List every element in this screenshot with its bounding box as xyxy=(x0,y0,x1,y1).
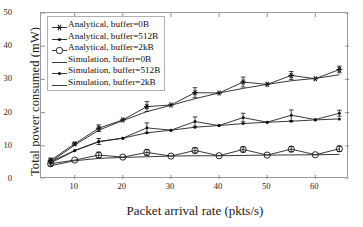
open-circle-marker-icon xyxy=(51,42,68,53)
y-tick-label: 30 xyxy=(0,73,12,83)
dot-marker-icon xyxy=(51,31,68,42)
legend-item: Analytical, buffer=2kB xyxy=(51,42,160,54)
legend-item: Simulation, buffer=2kB xyxy=(51,77,160,89)
legend-label: Analytical, buffer=2kB xyxy=(68,42,154,53)
legend-label: Analytical, buffer=0B xyxy=(68,19,149,30)
y-tick-label: 40 xyxy=(0,40,12,50)
dot-marker-icon xyxy=(51,65,68,76)
legend-item: Analytical, buffer=0B xyxy=(51,19,160,31)
x-tick-label: 20 xyxy=(107,181,137,191)
figure: Total power consumed (mW) 50403020100 10… xyxy=(0,0,363,227)
y-tick-label: 20 xyxy=(0,107,12,117)
x-tick-label: 60 xyxy=(299,181,329,191)
legend-label: Analytical, buffer=512B xyxy=(68,31,158,42)
x-tick-label: 30 xyxy=(155,181,185,191)
legend-item: Analytical, buffer=512B xyxy=(51,31,160,43)
line-marker-icon xyxy=(51,77,68,88)
x-tick-label: 40 xyxy=(203,181,233,191)
line-marker-icon xyxy=(51,54,68,65)
legend-label: Simulation, buffer=0B xyxy=(68,54,151,65)
legend-item: Simulation, buffer=0B xyxy=(51,54,160,66)
x-axis-title: Packet arrival rate (pkts/s) xyxy=(40,203,350,219)
y-tick-label: 50 xyxy=(0,7,12,17)
x-tick-label: 10 xyxy=(59,181,89,191)
x-tick-label: 50 xyxy=(251,181,281,191)
legend-item: Simulation, buffer=512B xyxy=(51,65,160,77)
legend-label: Simulation, buffer=512B xyxy=(68,65,160,76)
star-marker-icon xyxy=(51,19,68,30)
legend: Analytical, buffer=0BAnalytical, buffer=… xyxy=(47,16,165,91)
y-tick-label: 10 xyxy=(0,140,12,150)
y-tick-label: 0 xyxy=(0,173,12,183)
legend-label: Simulation, buffer=2kB xyxy=(68,77,156,88)
